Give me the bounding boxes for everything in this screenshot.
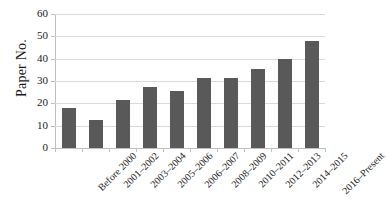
y-tick-mark xyxy=(51,81,55,82)
y-tick-label: 50 xyxy=(22,30,48,41)
bar[interactable] xyxy=(305,41,319,148)
y-tick-label: 30 xyxy=(22,75,48,86)
y-tick-mark xyxy=(51,126,55,127)
y-tick-label: 20 xyxy=(22,97,48,108)
y-tick-label: 40 xyxy=(22,53,48,64)
bar[interactable] xyxy=(170,91,184,148)
x-tick-labels: Before 20002001–20022003–20042005–200620… xyxy=(55,150,335,210)
bar[interactable] xyxy=(197,78,211,148)
y-tick-mark xyxy=(51,36,55,37)
bar-series xyxy=(55,14,325,148)
bar[interactable] xyxy=(224,78,238,148)
y-tick-label: 0 xyxy=(22,142,48,153)
y-tick-mark xyxy=(51,103,55,104)
bar[interactable] xyxy=(62,108,76,148)
bar[interactable] xyxy=(143,87,157,148)
y-axis-title: Paper No. xyxy=(14,8,30,128)
y-tick-label: 60 xyxy=(22,8,48,19)
bar[interactable] xyxy=(251,69,265,148)
y-tick-mark xyxy=(51,59,55,60)
bar[interactable] xyxy=(89,120,103,148)
y-tick-label: 10 xyxy=(22,120,48,131)
bar[interactable] xyxy=(278,59,292,148)
plot-area xyxy=(55,14,325,148)
y-tick-mark xyxy=(51,14,55,15)
bar[interactable] xyxy=(116,100,130,148)
